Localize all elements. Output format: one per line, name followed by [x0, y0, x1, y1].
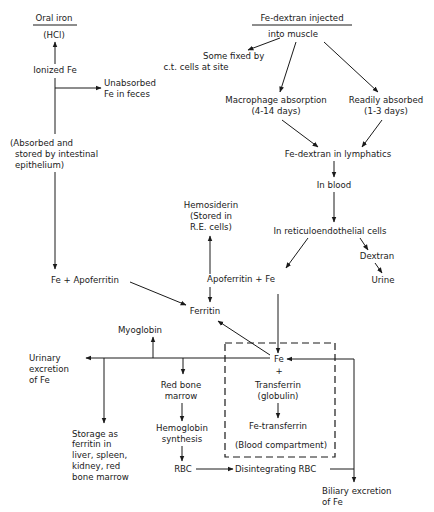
globulin-label: (globulin)	[258, 391, 299, 401]
arrow-re-to-dextran	[360, 238, 368, 250]
macrophage-label-2: (4-14 days)	[251, 106, 300, 116]
absorbed-label-3: epithelium)	[15, 160, 64, 170]
arrow-re-to-apoferritin	[286, 238, 308, 268]
arrow-dextran-to-urine	[375, 263, 382, 273]
absorbed-label-2: stored by intestinal	[15, 149, 98, 159]
ferritin-label: Ferritin	[190, 306, 220, 316]
urinary-label-1: Urinary	[29, 353, 61, 363]
lymphatics-label: Fe-dextran in lymphatics	[285, 149, 392, 159]
marrow-label-1: Red bone	[161, 380, 202, 390]
storage-label-5: bone marrow	[72, 472, 129, 482]
re-cells-label: In reticuloendothelial cells	[274, 226, 387, 236]
arrow-to-fixed	[248, 38, 280, 50]
storage-label-1: Storage as	[72, 429, 119, 439]
absorbed-label-1: (Absorbed and	[10, 138, 73, 148]
oral-iron-label: Oral iron	[35, 13, 72, 23]
urinary-label-2: excretion	[29, 364, 69, 374]
plus-label: +	[275, 366, 282, 376]
biliary-label-1: Biliary excretion	[322, 486, 392, 496]
hemoglobin-label-2: synthesis	[162, 434, 203, 444]
fe-dextran-injected-label: Fe-dextran injected	[260, 13, 343, 23]
hemoglobin-label-1: Hemoglobin	[156, 423, 208, 433]
marrow-label-2: marrow	[165, 391, 198, 401]
storage-label-4: kidney, red	[72, 461, 120, 471]
arrow-fe-to-ferritin	[218, 321, 270, 355]
dextran-label: Dextran	[360, 251, 394, 261]
hemosiderin-label-3: R.E. cells)	[190, 222, 232, 232]
arrow-fe-apoferritin-to-ferritin	[130, 282, 186, 305]
arrow-to-readily	[324, 42, 378, 92]
fixed-label-1: Some fixed by	[203, 51, 264, 61]
in-blood-label: In blood	[317, 180, 352, 190]
fe-apoferritin-label: Fe + Apoferritin	[51, 275, 119, 285]
arrow-to-macrophage	[280, 42, 296, 92]
ionized-fe-label: Ionized Fe	[33, 65, 76, 75]
hemosiderin-label-2: (Stored in	[190, 211, 232, 221]
into-muscle-label: into muscle	[268, 29, 318, 39]
arrow-macrophage-to-lymph	[282, 120, 318, 147]
hemosiderin-label-1: Hemosiderin	[184, 200, 238, 210]
arrow-readily-to-lymph	[362, 120, 382, 147]
blood-compartment-label: (Blood compartment)	[235, 440, 327, 450]
apoferritin-fe-label: Apoferritin + Fe	[207, 274, 275, 284]
myoglobin-label: Myoglobin	[118, 325, 162, 335]
unabsorbed-label-2: Fe in feces	[104, 89, 150, 99]
disintegrating-rbc-label: Disintegrating RBC	[235, 464, 316, 474]
storage-label-2: ferritin in	[72, 439, 111, 449]
fixed-label-2: c.t. cells at site	[163, 62, 228, 72]
rbc-label: RBC	[174, 464, 192, 474]
readily-label-1: Readily absorbed	[349, 95, 423, 105]
fe-transferrin-label: Fe-transferrin	[249, 421, 307, 431]
biliary-label-2: of Fe	[322, 497, 343, 507]
hcl-label: (HCl)	[43, 30, 65, 40]
iron-metabolism-diagram: Oral iron (HCl) Ionized Fe Unabsorbed Fe…	[0, 0, 434, 512]
macrophage-label-1: Macrophage absorption	[225, 95, 327, 105]
storage-label-3: liver, spleen,	[72, 450, 127, 460]
unabsorbed-label-1: Unabsorbed	[104, 78, 156, 88]
readily-label-2: (1-3 days)	[364, 106, 408, 116]
fe-label: Fe	[274, 354, 284, 364]
transferrin-label: Transferrin	[254, 380, 301, 390]
urine-label: Urine	[372, 275, 395, 285]
urinary-label-3: of Fe	[29, 375, 50, 385]
